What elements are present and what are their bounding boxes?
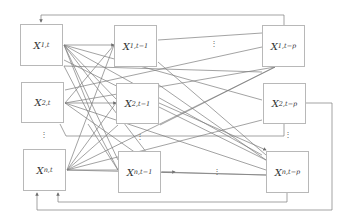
- node-label: X: [275, 167, 282, 178]
- node-subscript: n,t: [44, 166, 53, 174]
- node-subscript: n,t−p: [282, 168, 300, 176]
- node-label: X: [271, 41, 278, 52]
- node-label: X: [127, 167, 134, 178]
- node-label: X: [35, 97, 42, 108]
- node-label: X: [37, 165, 44, 176]
- node-x2t: X2,t: [21, 82, 64, 123]
- vertical-ellipsis: ⋮: [284, 131, 292, 139]
- node-subscript: 2,t: [42, 99, 51, 107]
- node-subscript: 2,t−p: [279, 100, 297, 108]
- node-subscript: 2,t−1: [132, 100, 150, 108]
- vertical-ellipsis: ⋮: [136, 133, 144, 141]
- node-subscript: 1,t−1: [130, 42, 148, 50]
- node-x1t1: X1,t−1: [114, 25, 157, 67]
- node-label: X: [125, 98, 132, 109]
- node-xnt: Xn,t: [23, 149, 66, 191]
- node-subscript: 1,t: [41, 41, 50, 49]
- node-x1tp: X1,t−p: [262, 25, 305, 67]
- node-label: X: [34, 40, 41, 51]
- vertical-ellipsis: ⋮: [210, 40, 218, 48]
- vertical-ellipsis: ⋮: [40, 131, 48, 139]
- node-label: X: [123, 41, 130, 52]
- node-xntp: Xn,t−p: [266, 151, 309, 193]
- node-subscript: 1,t−p: [278, 42, 296, 50]
- node-x1t: X1,t: [20, 24, 63, 66]
- node-label: X: [272, 98, 279, 109]
- node-subscript: n,t−1: [134, 168, 152, 176]
- node-x2t1: X2,t−1: [116, 83, 159, 124]
- node-x2tp: X2,t−p: [263, 83, 306, 124]
- vertical-ellipsis: ⋮: [213, 168, 221, 176]
- node-xnt1: Xn,t−1: [118, 151, 161, 193]
